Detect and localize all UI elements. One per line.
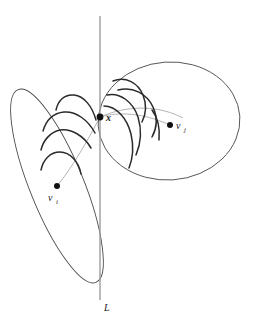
left-cell-group <box>0 79 121 292</box>
label-v-i-subscript: i <box>56 198 58 206</box>
left-arc-4 <box>41 152 81 174</box>
label-line-L: L <box>103 302 110 313</box>
point-x <box>97 114 104 121</box>
point-v-j <box>167 122 173 128</box>
connector-curves-group <box>57 108 183 186</box>
label-v-j-subscript: j <box>183 126 186 134</box>
left-level-set-arcs <box>41 95 96 174</box>
right-cell-boundary <box>94 57 244 185</box>
right-cell-group <box>94 57 244 185</box>
point-v-i <box>54 183 60 189</box>
figure-container: x v i v j L <box>0 0 254 323</box>
connector-vi-to-x <box>57 117 100 186</box>
connector-arc-right-outer <box>100 108 183 118</box>
right-level-set-arcs <box>104 79 159 168</box>
left-arc-1 <box>56 95 96 120</box>
left-cell-boundary <box>0 79 121 292</box>
right-arc-3 <box>107 94 140 155</box>
label-x: x <box>105 112 111 123</box>
label-v-i: v <box>48 192 53 203</box>
diagram-svg: x v i v j L <box>0 0 254 323</box>
label-v-j: v <box>176 120 181 131</box>
